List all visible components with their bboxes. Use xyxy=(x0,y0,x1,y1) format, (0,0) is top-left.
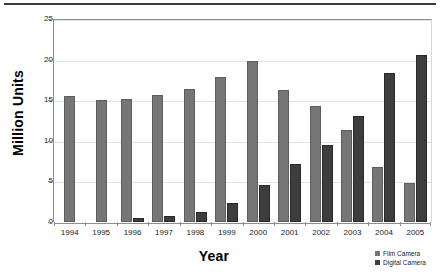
bar-digital-2004 xyxy=(384,73,395,222)
x-tick-cell xyxy=(117,222,148,226)
x-tick-mark xyxy=(337,222,338,226)
bar-group xyxy=(243,19,274,222)
x-tick-mark xyxy=(180,222,181,226)
bar-digital-1998 xyxy=(196,212,207,222)
bar-group xyxy=(400,19,431,222)
y-tick-label: 20 xyxy=(9,56,53,64)
bar-film-2002 xyxy=(310,106,321,222)
x-tick-mark xyxy=(243,222,244,226)
bar-film-1997 xyxy=(152,95,163,222)
x-tick-label: 1998 xyxy=(180,228,211,238)
bar-group xyxy=(211,19,242,222)
x-tick-label: 2000 xyxy=(243,228,274,238)
x-axis-title: Year xyxy=(54,248,374,264)
top-divider-rule xyxy=(4,3,436,5)
y-tick-mark xyxy=(48,222,52,223)
bar-film-1999 xyxy=(215,77,226,222)
x-tick-label: 1994 xyxy=(54,228,85,238)
x-tick-mark xyxy=(274,222,275,226)
bar-digital-1999 xyxy=(227,203,238,222)
bar-group xyxy=(117,19,148,222)
x-tick-mark xyxy=(117,222,118,226)
y-axis-ticks: 0510152025 xyxy=(0,19,53,222)
bar-group xyxy=(368,19,399,222)
bar-film-2001 xyxy=(278,90,289,222)
bar-group xyxy=(337,19,368,222)
x-tick-cell xyxy=(148,222,179,226)
x-tick-cell xyxy=(274,222,305,226)
x-tick-label: 2003 xyxy=(337,228,368,238)
chart-figure: Million Units 0510152025 199419951996199… xyxy=(0,0,440,275)
bar-groups xyxy=(54,19,431,222)
x-tick-label: 2001 xyxy=(274,228,305,238)
bar-group xyxy=(305,19,336,222)
x-tick-cell xyxy=(180,222,211,226)
bar-group xyxy=(85,19,116,222)
bar-digital-2002 xyxy=(322,145,333,222)
x-tick-mark xyxy=(430,222,431,226)
x-tick-cell xyxy=(85,222,116,226)
legend-swatch-icon xyxy=(375,260,380,265)
x-tick-cell xyxy=(211,222,242,226)
x-tick-cell xyxy=(368,222,399,226)
x-tick-label: 1996 xyxy=(117,228,148,238)
bar-digital-2005 xyxy=(416,55,427,222)
chart-legend: Film CameraDigital Camera xyxy=(375,250,440,268)
x-tick-mark xyxy=(211,222,212,226)
x-tick-cell xyxy=(54,222,85,226)
x-tick-cell xyxy=(400,222,431,226)
x-tick-label: 2005 xyxy=(400,228,431,238)
bar-film-2003 xyxy=(341,130,352,222)
legend-item[interactable]: Film Camera xyxy=(375,250,440,257)
bar-group xyxy=(274,19,305,222)
x-tick-label: 1999 xyxy=(211,228,242,238)
y-tick-mark xyxy=(48,141,52,142)
bar-film-2000 xyxy=(247,61,258,222)
bar-film-2005 xyxy=(404,183,415,222)
bar-digital-2001 xyxy=(290,164,301,222)
x-tick-mark xyxy=(148,222,149,226)
x-tick-mark xyxy=(400,222,401,226)
bar-digital-2003 xyxy=(353,116,364,222)
y-tick-mark xyxy=(48,181,52,182)
x-axis-ticks xyxy=(54,222,431,226)
x-tick-mark xyxy=(54,222,55,226)
bar-film-1994 xyxy=(64,96,75,222)
x-tick-label: 1995 xyxy=(85,228,116,238)
x-tick-mark xyxy=(85,222,86,226)
bar-digital-2000 xyxy=(259,185,270,222)
x-tick-mark xyxy=(305,222,306,226)
y-tick-mark xyxy=(48,100,52,101)
y-tick-mark xyxy=(48,60,52,61)
x-tick-cell xyxy=(305,222,336,226)
bar-film-1995 xyxy=(96,100,107,222)
legend-label: Film Camera xyxy=(383,250,420,257)
x-tick-cell xyxy=(337,222,368,226)
bar-group xyxy=(180,19,211,222)
legend-swatch-icon xyxy=(375,251,380,256)
y-tick-mark xyxy=(48,19,52,20)
y-tick-label: 10 xyxy=(9,137,53,145)
bar-group xyxy=(148,19,179,222)
legend-label: Digital Camera xyxy=(383,259,426,266)
y-tick-label: 15 xyxy=(9,96,53,104)
x-tick-label: 2004 xyxy=(368,228,399,238)
x-tick-mark xyxy=(368,222,369,226)
bar-group xyxy=(54,19,85,222)
x-tick-label: 2002 xyxy=(305,228,336,238)
y-tick-label: 0 xyxy=(9,218,53,226)
y-tick-label: 5 xyxy=(9,177,53,185)
bar-film-2004 xyxy=(372,167,383,222)
x-axis-tick-labels: 1994199519961997199819992000200120022003… xyxy=(54,228,431,238)
x-tick-label: 1997 xyxy=(148,228,179,238)
bar-film-1998 xyxy=(184,89,195,222)
legend-item[interactable]: Digital Camera xyxy=(375,259,440,266)
x-tick-cell xyxy=(243,222,274,226)
bar-film-1996 xyxy=(121,99,132,222)
y-tick-label: 25 xyxy=(9,15,53,23)
